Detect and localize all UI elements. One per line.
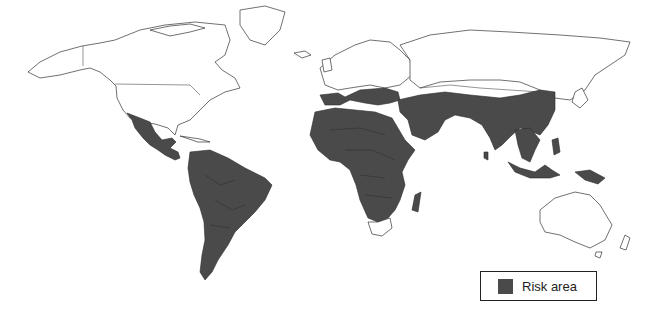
northern-europe: [320, 40, 412, 90]
legend-risk-swatch: [498, 279, 513, 294]
legend-risk-label: Risk area: [522, 279, 577, 294]
sri-lanka: [484, 152, 488, 160]
indonesia: [508, 162, 560, 178]
uk: [322, 58, 332, 72]
iceland: [294, 51, 311, 58]
southern-europe: [320, 88, 400, 105]
australia: [540, 192, 612, 248]
greenland: [240, 6, 285, 45]
new-zealand: [620, 235, 630, 250]
madagascar: [412, 192, 421, 212]
map-legend: Risk area: [480, 271, 597, 301]
cuba-caribbean: [180, 136, 210, 142]
central-asia-borders: [420, 85, 540, 92]
africa: [310, 108, 415, 222]
south-america: [188, 150, 272, 280]
papua-new-guinea: [575, 170, 605, 184]
philippines: [552, 138, 560, 155]
russia-north-asia: [400, 30, 630, 100]
tasmania: [595, 252, 602, 258]
